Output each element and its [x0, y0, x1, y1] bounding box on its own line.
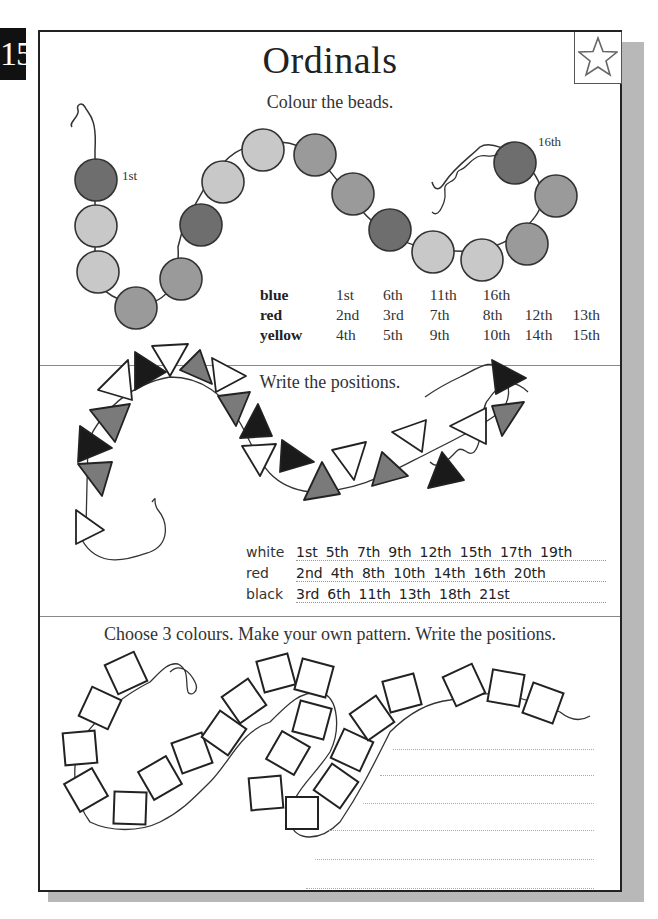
square-22[interactable]: [522, 682, 563, 723]
write-line[interactable]: [306, 888, 594, 889]
square-12[interactable]: [292, 700, 331, 739]
square-10[interactable]: [256, 653, 295, 692]
page-number: 15: [0, 28, 26, 80]
square-13[interactable]: [266, 731, 310, 775]
square-15[interactable]: [286, 797, 318, 829]
write-line[interactable]: [380, 775, 594, 776]
square-5[interactable]: [113, 791, 146, 824]
square-4[interactable]: [64, 768, 108, 812]
write-line[interactable]: [393, 749, 594, 750]
write-line[interactable]: [315, 859, 594, 860]
square-necklace: [40, 32, 620, 892]
square-2[interactable]: [79, 687, 122, 730]
worksheet-frame: Ordinals Colour the beads.: [38, 30, 622, 892]
square-16[interactable]: [314, 764, 359, 809]
square-1[interactable]: [105, 652, 148, 695]
write-line[interactable]: [329, 830, 594, 831]
square-21[interactable]: [487, 669, 524, 706]
write-line[interactable]: [363, 803, 594, 804]
square-3[interactable]: [63, 731, 98, 766]
square-19[interactable]: [382, 673, 421, 712]
square-11[interactable]: [294, 658, 333, 697]
square-14[interactable]: [249, 776, 284, 811]
